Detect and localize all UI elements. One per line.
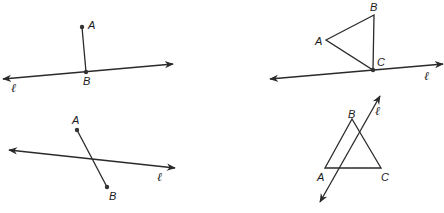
label-c: C <box>381 171 389 183</box>
label-line: ℓ <box>424 69 429 83</box>
point-b <box>105 185 109 189</box>
point-b <box>84 70 88 74</box>
figure-2: B A C ℓ <box>270 1 443 83</box>
label-b: B <box>109 190 116 202</box>
point-a <box>80 25 84 29</box>
figure-4: B A C ℓ <box>316 96 389 202</box>
label-line: ℓ <box>11 81 16 95</box>
triangle-abc <box>326 15 374 70</box>
geometry-figures: A B ℓ B A C ℓ A B ℓ B A C ℓ <box>0 0 444 213</box>
label-b: B <box>370 1 377 13</box>
label-a: A <box>71 114 79 126</box>
line-l <box>270 64 443 79</box>
label-b: B <box>348 108 355 120</box>
label-b: B <box>83 75 90 87</box>
label-a: A <box>314 35 322 47</box>
label-a: A <box>87 19 95 31</box>
label-line: ℓ <box>157 170 162 184</box>
label-line: ℓ <box>375 104 380 118</box>
label-a: A <box>316 171 324 183</box>
point-a <box>75 128 79 132</box>
label-c: C <box>377 56 385 68</box>
figure-3: A B ℓ <box>9 114 175 202</box>
segment-ab <box>82 27 86 72</box>
figure-1: A B ℓ <box>3 19 173 95</box>
point-c <box>371 68 375 72</box>
